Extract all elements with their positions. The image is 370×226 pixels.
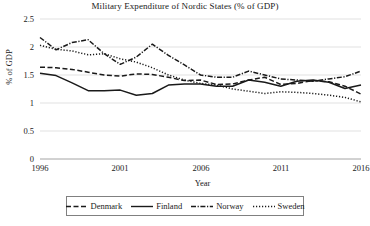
legend-item-sweden: Sweden [253,201,305,211]
legend: Denmark Finland Norway Sweden [66,196,304,216]
chart-container: Military Expenditure of Nordic States (%… [0,0,370,226]
legend-label-sweden: Sweden [278,201,305,211]
series-line-norway [40,37,361,81]
legend-swatch-norway [191,203,213,210]
legend-label-norway: Norway [216,201,243,211]
legend-label-finland: Finland [156,201,182,211]
legend-item-denmark: Denmark [66,201,123,211]
legend-item-norway: Norway [191,201,243,211]
plot-area [0,0,370,226]
series-line-finland [40,73,361,95]
legend-swatch-denmark [66,203,88,210]
legend-item-finland: Finland [131,201,182,211]
legend-swatch-finland [131,203,153,210]
legend-label-denmark: Denmark [91,201,123,211]
series-line-sweden [40,45,361,102]
legend-swatch-sweden [253,203,275,210]
